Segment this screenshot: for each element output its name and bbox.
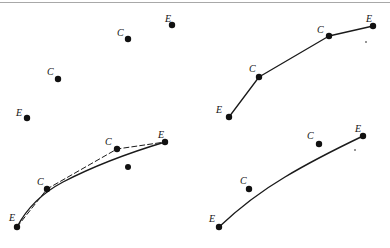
endpoint-label: E: [165, 14, 171, 24]
control-polygons-layer: [17, 26, 373, 227]
control-point-label: C: [47, 67, 54, 77]
control-point-dot[interactable]: [55, 76, 61, 82]
control-point-dot[interactable]: [326, 33, 332, 39]
point-dots-layer: [14, 22, 376, 230]
control-point-label: C: [249, 64, 256, 74]
endpoint-dot[interactable]: [226, 114, 232, 120]
curves-layer: [17, 136, 363, 227]
endpoint-label: E: [9, 213, 15, 223]
endpoint-label: E: [16, 108, 22, 118]
endpoint-label: E: [216, 105, 222, 115]
control-point-dot[interactable]: [44, 186, 50, 192]
control-point-label: C: [240, 176, 247, 186]
figure-canvas: [0, 0, 390, 248]
endpoint-dot[interactable]: [216, 224, 222, 230]
control-point-label: C: [307, 131, 314, 141]
unlabelled-dot[interactable]: [354, 149, 356, 151]
control-point-dot[interactable]: [114, 146, 120, 152]
control-point-dot[interactable]: [316, 141, 322, 147]
control-point-dot[interactable]: [125, 36, 131, 42]
control-point-label: C: [37, 177, 44, 187]
endpoint-dot[interactable]: [14, 224, 20, 230]
endpoint-dot[interactable]: [24, 115, 30, 121]
unlabelled-dot[interactable]: [125, 164, 131, 170]
endpoint-label: E: [355, 124, 361, 134]
control-point-label: C: [105, 137, 112, 147]
endpoint-label: E: [158, 130, 164, 140]
control-point-dot[interactable]: [246, 186, 252, 192]
control-point-label: C: [117, 28, 124, 38]
control-point-label: C: [317, 25, 324, 35]
control-point-dot[interactable]: [256, 74, 262, 80]
endpoint-label: E: [366, 14, 372, 24]
bezier-figure: ECCEECCEECCEECCE: [0, 0, 390, 248]
unlabelled-dot[interactable]: [365, 41, 367, 43]
endpoint-label: E: [209, 214, 215, 224]
